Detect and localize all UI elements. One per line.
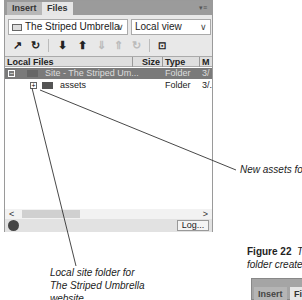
- refresh-icon[interactable]: ↻: [28, 38, 42, 53]
- scrollbar-thumb[interactable]: [22, 210, 80, 218]
- callout-local-site-folder: Local site folder for The Striped Umbrel…: [50, 266, 144, 300]
- expand-icon[interactable]: ⊡: [155, 38, 169, 53]
- figure-number: Figure 22: [247, 246, 291, 257]
- log-button[interactable]: Log...: [177, 220, 209, 231]
- column-type[interactable]: Type: [163, 57, 200, 67]
- site-folder-icon: [27, 70, 38, 77]
- site-select[interactable]: The Striped Umbrella ∨: [8, 19, 128, 35]
- horizontal-scrollbar[interactable]: < >: [5, 209, 212, 219]
- chevron-down-icon: ∨: [117, 20, 124, 34]
- folder-icon: [42, 82, 53, 89]
- status-bar: Log...: [5, 219, 212, 232]
- globe-icon: [8, 220, 19, 231]
- list-item-assets[interactable]: + assets Folder 3/.: [5, 80, 212, 91]
- panel-tab-bar: Insert Files ▾≡: [5, 1, 212, 15]
- files-panel: Insert Files ▾≡ The Striped Umbrella ∨ L…: [4, 0, 213, 232]
- folder-icon: [12, 24, 22, 31]
- tab-files[interactable]: Files: [42, 2, 73, 15]
- collapse-icon[interactable]: −: [8, 70, 15, 77]
- list-item-site-root[interactable]: − Site - The Striped Um... Folder 3/: [5, 68, 212, 79]
- toolbar-divider: [149, 39, 150, 52]
- connect-icon[interactable]: ↗: [10, 38, 24, 53]
- mini-tab-files: Fil: [290, 287, 302, 300]
- chevron-down-icon: ∨: [200, 20, 207, 34]
- view-select[interactable]: Local view ∨: [131, 19, 211, 35]
- callout-new-assets-folder: New assets folder: [240, 163, 302, 176]
- put-icon[interactable]: ⬆: [75, 38, 89, 53]
- sync-icon[interactable]: ↻: [129, 38, 143, 53]
- figure-caption: Figure 22 Th folder created (: [247, 245, 302, 271]
- get-icon[interactable]: ⬇: [55, 38, 69, 53]
- scroll-left-icon[interactable]: <: [9, 209, 14, 219]
- mini-tab-insert: Insert: [254, 287, 287, 300]
- file-list: − Site - The Striped Um... Folder 3/ + a…: [5, 67, 212, 217]
- tab-insert[interactable]: Insert: [7, 2, 42, 15]
- check-in-icon[interactable]: ⇑: [111, 38, 125, 53]
- column-local-files[interactable]: Local Files: [5, 57, 133, 67]
- mini-files-panel: Insert Fil: [251, 278, 302, 300]
- panel-menu-icon[interactable]: ▾≡: [199, 4, 209, 11]
- column-modified[interactable]: M: [200, 57, 213, 67]
- scroll-right-icon[interactable]: >: [203, 209, 208, 219]
- expand-icon[interactable]: +: [30, 82, 37, 89]
- file-list-header: Local Files Size Type M: [5, 56, 212, 67]
- column-size[interactable]: Size: [133, 57, 163, 67]
- files-toolbar: ↗ ↻ ⬇ ⬆ ⇓ ⇑ ↻ ⊡: [8, 38, 209, 54]
- check-out-icon[interactable]: ⇓: [94, 38, 108, 53]
- toolbar-divider: [48, 39, 49, 52]
